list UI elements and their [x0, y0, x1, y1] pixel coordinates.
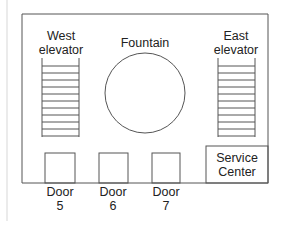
door-5-label: Door 5: [40, 185, 80, 213]
east-elevator-label-line2: elevator: [205, 43, 267, 57]
east-elevator-label-line1: East: [205, 29, 267, 43]
west-elevator-label: West elevator: [30, 29, 92, 57]
fountain-circle: [105, 53, 185, 133]
door-6-label-line2: 6: [93, 199, 133, 213]
door-6-label: Door 6: [93, 185, 133, 213]
door-7-label-line1: Door: [146, 185, 186, 199]
door-6-box: [99, 153, 128, 183]
service-center-label: Service Center: [206, 151, 268, 179]
service-center-label-line2: Center: [206, 165, 268, 179]
door-5-box: [45, 153, 75, 183]
east-elevator-label: East elevator: [205, 29, 267, 57]
west-elevator-ladder: [42, 58, 79, 137]
door-7-label: Door 7: [146, 185, 186, 213]
door-7-box: [152, 153, 180, 183]
fountain-label: Fountain: [112, 36, 178, 50]
door-6-label-line1: Door: [93, 185, 133, 199]
door-5-label-line1: Door: [40, 185, 80, 199]
service-center-label-line1: Service: [206, 151, 268, 165]
door-5-label-line2: 5: [40, 199, 80, 213]
door-7-label-line2: 7: [146, 199, 186, 213]
west-elevator-label-line2: elevator: [30, 43, 92, 57]
west-elevator-label-line1: West: [30, 29, 92, 43]
east-elevator-ladder: [218, 58, 255, 137]
